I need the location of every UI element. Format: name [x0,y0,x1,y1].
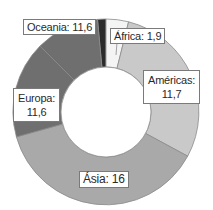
label-americas-line2: 11,7 [148,87,195,101]
label-africa: África: 1,9 [110,28,165,44]
label-africa-text: África: 1,9 [114,30,161,42]
label-europa-line2: 11,6 [18,105,55,119]
label-oceania: Oceania: 11,6 [23,19,96,35]
label-americas-line1: Américas: [148,73,195,87]
label-americas: Américas: 11,7 [143,70,200,104]
label-oceania-text: Oceania: 11,6 [27,21,92,33]
donut-hole [61,67,151,157]
label-asia-text: Ásia: 16 [83,172,125,186]
label-europa: Europa: 11,6 [13,88,60,122]
label-asia: Ásia: 16 [79,171,129,188]
label-europa-line1: Europa: [18,91,55,105]
